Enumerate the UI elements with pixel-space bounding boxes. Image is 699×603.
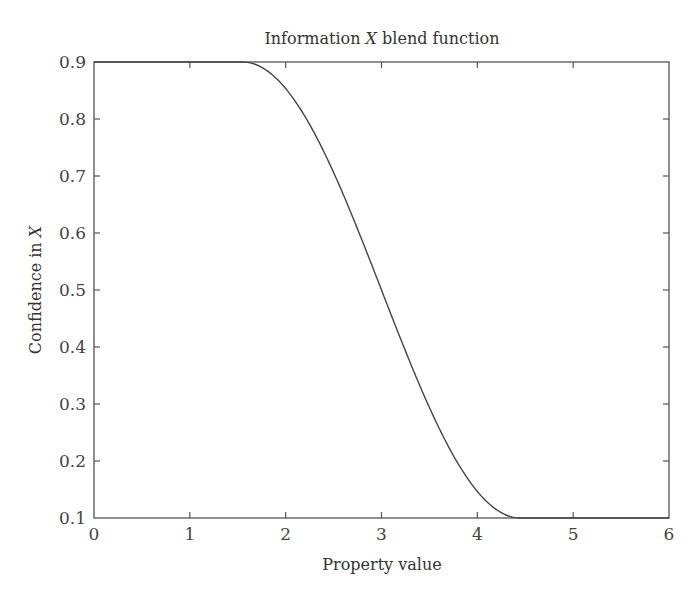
y-tick-label: 0.6	[59, 223, 86, 243]
x-tick-label: 4	[472, 524, 483, 544]
x-axis-label: Property value	[322, 555, 441, 574]
x-tick-label: 6	[664, 524, 675, 544]
y-label-italic: X	[26, 225, 45, 239]
y-tick-label: 0.3	[59, 394, 86, 414]
y-tick-label: 0.4	[59, 337, 86, 357]
confidence-curve	[94, 62, 669, 518]
svg-text:Information X blend function: Information X blend function	[264, 29, 499, 48]
x-tick-label: 0	[89, 524, 100, 544]
y-label-text: Confidence in	[26, 237, 45, 354]
x-tick-label: 5	[568, 524, 579, 544]
chart: Information X blend function 0123456 0.1…	[0, 0, 699, 603]
x-axis: 0123456	[89, 62, 675, 544]
y-tick-label: 0.9	[59, 52, 86, 72]
y-axis-label: Confidence in X	[26, 225, 45, 354]
y-tick-label: 0.5	[59, 280, 86, 300]
y-tick-label: 0.7	[59, 166, 86, 186]
x-tick-label: 3	[376, 524, 387, 544]
chart-title: Information X blend function	[264, 29, 499, 48]
x-tick-label: 1	[184, 524, 195, 544]
y-tick-label: 0.2	[59, 451, 86, 471]
title-text-2: blend function	[377, 29, 500, 48]
title-text-1: Information	[264, 29, 365, 48]
y-axis: 0.10.20.30.40.50.60.70.80.9	[59, 52, 669, 528]
y-tick-label: 0.8	[59, 109, 86, 129]
y-tick-label: 0.1	[59, 508, 86, 528]
x-tick-label: 2	[280, 524, 291, 544]
title-text-italic: X	[364, 29, 378, 48]
